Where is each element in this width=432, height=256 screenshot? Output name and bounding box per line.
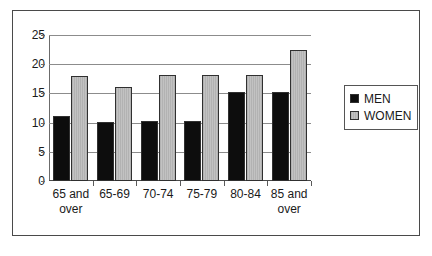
x-axis-category-label: 80-84 — [224, 187, 268, 202]
gridline — [49, 35, 311, 36]
gridline — [49, 64, 311, 65]
bar-men-2 — [141, 121, 158, 181]
legend-label-men: MEN — [364, 92, 391, 106]
y-axis-tick-mark — [41, 123, 45, 124]
x-axis-category-label: 65-69 — [93, 187, 137, 202]
legend-label-women: WOMEN — [364, 109, 411, 123]
x-axis-tick-mark — [180, 181, 181, 186]
figure: 0510152025 65 and over65-6970-7475-7980-… — [0, 0, 432, 256]
legend-swatch-women-icon — [350, 111, 359, 120]
x-axis-category-label: 85 and over — [267, 187, 311, 217]
y-axis-tick-mark — [41, 152, 45, 153]
bar-men-3 — [184, 121, 201, 181]
legend-swatch-men-icon — [350, 94, 359, 103]
bar-women-1 — [115, 87, 132, 181]
bar-men-4 — [228, 92, 245, 181]
x-axis-tick-mark — [224, 181, 225, 186]
x-axis-tick-mark — [93, 181, 94, 186]
x-axis-tick-mark — [136, 181, 137, 186]
bar-men-5 — [272, 92, 289, 181]
bar-women-4 — [246, 75, 263, 181]
bar-women-2 — [159, 75, 176, 181]
x-axis-category-label: 70-74 — [136, 187, 180, 202]
y-axis-tick-mark — [41, 93, 45, 94]
legend-item-men: MEN — [350, 90, 411, 107]
x-axis-category-label: 75-79 — [180, 187, 224, 202]
x-axis-category-labels: 65 and over65-6970-7475-7980-8485 and ov… — [49, 187, 311, 233]
x-axis-tick-mark — [311, 181, 312, 186]
y-axis-line — [49, 35, 50, 181]
x-axis-tick-mark — [267, 181, 268, 186]
x-axis-category-label: 65 and over — [49, 187, 93, 217]
y-axis-tick-mark — [41, 64, 45, 65]
plot-area — [49, 35, 311, 181]
legend-item-women: WOMEN — [350, 107, 411, 124]
bar-women-0 — [71, 76, 88, 181]
y-axis-tick-labels: 0510152025 — [13, 35, 45, 181]
y-axis-tick-mark — [41, 35, 45, 36]
chart-frame: 0510152025 65 and over65-6970-7475-7980-… — [12, 10, 420, 236]
bar-women-3 — [202, 75, 219, 181]
bar-women-5 — [290, 50, 307, 181]
y-axis-tick-mark — [41, 181, 45, 182]
legend: MEN WOMEN — [344, 85, 418, 130]
bar-men-0 — [53, 116, 70, 181]
bar-men-1 — [97, 122, 114, 181]
